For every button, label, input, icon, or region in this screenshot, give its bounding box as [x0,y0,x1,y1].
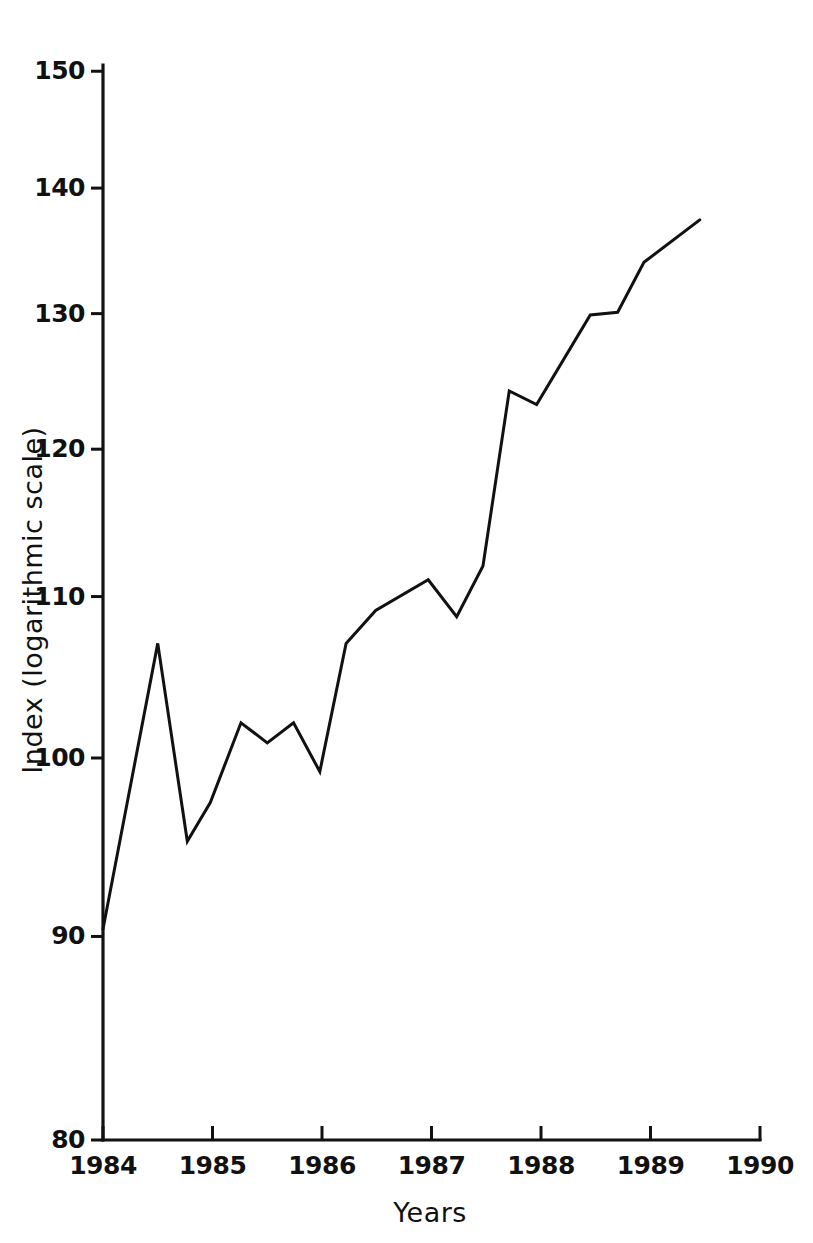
y-tick-label-90: 90 [51,921,85,950]
y-tick-label-140: 140 [34,173,85,202]
y-tick-label-80: 80 [51,1125,85,1154]
data-series-group [103,220,700,929]
x-tick-label-1986: 1986 [288,1151,356,1180]
y-tick-label-150: 150 [34,56,85,85]
y-axis-title: Index (logarithmic scale) [17,426,48,773]
y-tick-label-130: 130 [34,299,85,328]
x-tick-label-1985: 1985 [179,1151,247,1180]
data-line-index [103,220,700,929]
x-tick-label-1984: 1984 [69,1151,137,1180]
chart-figure: 1501401301201101009080 19841985198619871… [0,0,813,1243]
line-chart: 1501401301201101009080 19841985198619871… [0,0,813,1243]
x-axis-ticks: 1984198519861987198819891990 [69,1126,794,1180]
x-tick-label-1990: 1990 [726,1151,794,1180]
x-tick-label-1988: 1988 [507,1151,575,1180]
x-tick-label-1987: 1987 [398,1151,466,1180]
x-tick-label-1989: 1989 [617,1151,685,1180]
x-axis-title: Years [392,1197,467,1228]
chart-axes [103,65,760,1140]
